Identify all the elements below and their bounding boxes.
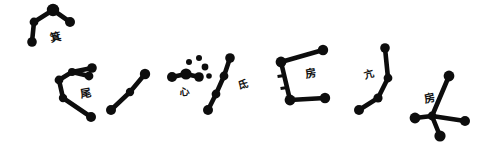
star-node xyxy=(140,69,150,79)
star-node xyxy=(203,105,213,115)
star-node xyxy=(194,72,204,82)
star-node xyxy=(384,74,393,83)
star-node xyxy=(220,72,229,81)
star-node xyxy=(444,71,455,82)
star-node xyxy=(85,72,94,81)
star-node xyxy=(428,112,437,121)
star-node xyxy=(285,95,296,106)
star-node xyxy=(318,45,328,55)
star-node xyxy=(106,105,116,115)
star-node xyxy=(55,76,64,85)
star-node xyxy=(167,72,177,82)
star-chart-canvas xyxy=(0,0,494,148)
star-node xyxy=(460,116,470,126)
star-node xyxy=(202,64,209,71)
star-node xyxy=(354,105,364,115)
star-node xyxy=(276,57,287,68)
star-node xyxy=(196,55,202,61)
star-node xyxy=(68,68,76,76)
star-node xyxy=(434,130,445,141)
star-node xyxy=(206,73,212,79)
star-node xyxy=(225,53,235,63)
star-node xyxy=(186,59,192,65)
star-node xyxy=(47,4,59,16)
star-node xyxy=(87,63,97,73)
star-node xyxy=(126,88,134,96)
star-node xyxy=(27,37,37,47)
star-node xyxy=(65,17,75,27)
star-node xyxy=(410,113,421,124)
star-node xyxy=(30,18,39,27)
star-node xyxy=(373,93,382,102)
star-node xyxy=(86,112,96,122)
star-node xyxy=(212,90,221,99)
star-node xyxy=(320,93,330,103)
constellation-diagram: 箕尾心氐房亢房 xyxy=(0,0,494,148)
star-node xyxy=(180,68,191,79)
star-node xyxy=(59,94,67,102)
star-node xyxy=(380,43,390,53)
